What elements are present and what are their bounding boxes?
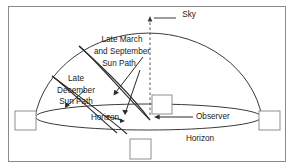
placeholder-box-observer — [152, 95, 172, 114]
placeholder-box-right — [259, 111, 280, 130]
figure-border — [9, 7, 286, 162]
label-sky: Sky — [182, 10, 197, 19]
placeholder-box-left — [15, 111, 36, 130]
label-march-september-line2: and September — [94, 47, 150, 56]
label-observer: Observer — [196, 112, 230, 121]
sun-path-diagram: Sky Late March and September Sun Path La… — [0, 0, 294, 168]
label-march-september-line3: Sun Path — [102, 59, 136, 68]
diagram-canvas: Sky Late March and September Sun Path La… — [0, 0, 294, 168]
label-horizon-inner: Horizon — [91, 113, 120, 122]
label-december-line1: Late — [68, 74, 84, 83]
label-december-line3: Sun Path — [59, 97, 93, 106]
label-december-line2: December — [57, 86, 95, 95]
placeholder-box-bottom — [130, 139, 151, 159]
label-march-september-line1: Late March — [102, 35, 143, 44]
label-horizon-outer: Horizon — [186, 134, 215, 143]
